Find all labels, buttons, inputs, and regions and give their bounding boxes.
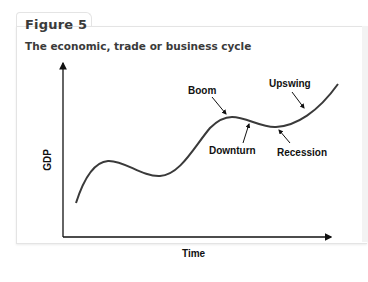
business-cycle-diagram: Boom Downturn Recession Upswing Time GDP	[0, 0, 368, 282]
x-axis-label: Time	[182, 248, 206, 259]
boom-arrow	[212, 97, 226, 114]
gdp-curve	[76, 84, 338, 203]
upswing-label: Upswing	[269, 78, 311, 89]
recession-arrow	[279, 130, 290, 143]
y-axis-label: GDP	[42, 149, 53, 171]
boom-label: Boom	[188, 85, 216, 96]
downturn-arrow	[243, 124, 249, 143]
downturn-label: Downturn	[209, 145, 256, 156]
recession-label: Recession	[277, 147, 327, 158]
upswing-arrow	[292, 92, 304, 108]
